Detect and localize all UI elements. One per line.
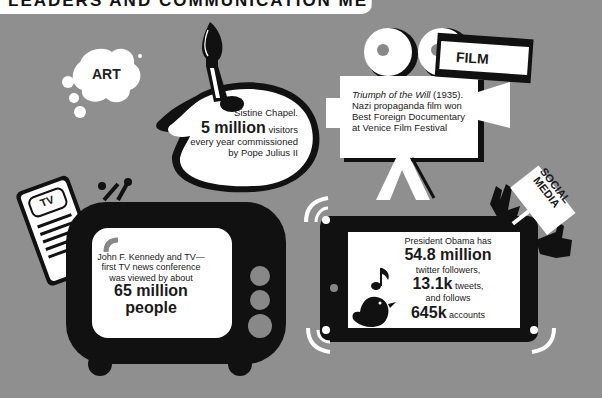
film-line: at Venice Film Festival [352,123,478,134]
following-count: 645k [411,304,447,321]
film-label: FILM [455,49,489,67]
social-line: and follows [398,293,498,303]
art-description: Sistine Chapel. 5 million visitors every… [168,108,298,159]
tv-description: John F. Kennedy and TV— first TV news co… [92,252,210,317]
following-unit: accounts [447,310,486,320]
tweets-count: 13.1k [412,275,452,292]
social-line: twitter followers, [398,265,498,275]
art-stat-unit: visitors [266,124,298,135]
social-line: President Obama has [398,236,498,246]
art-stat: 5 million visitors [168,119,298,137]
paint-splash-icon [62,49,142,118]
art-stat-value: 5 million [201,119,266,136]
social-description: President Obama has 54.8 million twitter… [398,236,498,322]
paintbrush-icon [202,22,228,102]
tv-line: John F. Kennedy and TV— [92,252,210,262]
followers-count: 54.8 million [398,246,498,264]
tv-stat-value: 65 million [92,283,210,300]
illustration [0,0,602,398]
film-year: (1935). [430,89,463,100]
tv-line: first TV news conference [92,262,210,272]
art-line: by Pope Julius II [168,148,298,159]
tweets-unit: tweets, [453,281,484,291]
art-line: Sistine Chapel. [168,108,298,119]
film-description: Triumph of the Will (1935). Nazi propaga… [352,90,478,134]
art-label: ART [92,66,121,82]
tv-stat-unit: people [92,300,210,317]
film-title: Triumph of the Will [352,89,430,100]
